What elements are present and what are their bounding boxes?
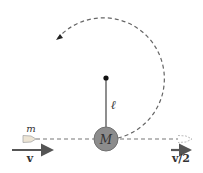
exiting-bullet-ghost-icon: [178, 136, 192, 143]
bullet-mass-label: m: [26, 123, 35, 134]
string-length-label: ℓ: [111, 98, 116, 112]
initial-velocity-label: v: [26, 152, 34, 165]
bullet-icon: [23, 136, 36, 143]
circular-trajectory-path: [58, 18, 164, 138]
final-velocity-label: v/2: [171, 152, 190, 165]
pendulum-diagram: M ℓ m v v/2: [0, 0, 203, 173]
pivot-point: [103, 75, 108, 80]
pendulum-mass-label: M: [99, 133, 113, 147]
trajectory-arrowhead-icon: [56, 34, 63, 40]
